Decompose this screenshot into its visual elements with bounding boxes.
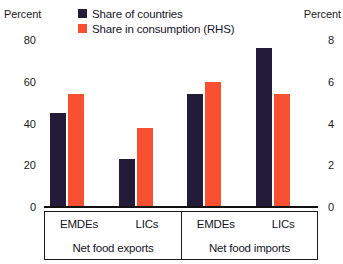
bar-group	[181, 40, 250, 207]
y2-axis-tick-label: 2	[328, 160, 334, 171]
legend-label: Share of countries	[92, 8, 183, 20]
y-axis-tick-label: 0	[30, 202, 36, 213]
y2-axis-tick-label: 6	[328, 76, 334, 87]
y2-axis-tick-label: 4	[328, 118, 334, 129]
legend-swatch-icon	[78, 9, 87, 18]
category-sublabel: LICs	[113, 218, 181, 230]
chart-legend: Share of countriesShare in consumption (…	[78, 6, 234, 36]
category-group-box: EMDEsLICsNet food exports	[44, 211, 182, 260]
category-group-box: EMDEsLICsNet food imports	[181, 211, 318, 260]
bar-share-of-countries	[119, 159, 135, 207]
category-sublabel: EMDEs	[45, 218, 113, 230]
x-axis-line	[44, 206, 318, 208]
y2-axis-tick-label: 0	[328, 202, 334, 213]
category-group-label: Net food exports	[45, 236, 181, 259]
category-sublabel-row: EMDEsLICs	[182, 212, 317, 236]
legend-label: Share in consumption (RHS)	[92, 23, 234, 35]
y-axis-tick-label: 80	[24, 35, 36, 46]
bar-share-in-consumption	[68, 94, 84, 207]
bar-share-of-countries	[187, 94, 203, 207]
bar-share-of-countries	[256, 48, 272, 207]
bar-group	[250, 40, 319, 207]
category-sublabel-row: EMDEsLICs	[45, 212, 181, 236]
legend-item: Share in consumption (RHS)	[78, 21, 234, 36]
bar-share-in-consumption	[137, 128, 153, 207]
category-sublabel: LICs	[250, 218, 318, 230]
y2-axis-tick-label: 8	[328, 35, 334, 46]
plot-area: 02040608002468	[44, 40, 318, 207]
legend-swatch-icon	[78, 24, 87, 33]
bar-group	[113, 40, 182, 207]
category-group-label: Net food imports	[182, 236, 317, 259]
y-axis-tick-label: 20	[24, 160, 36, 171]
right-axis-title: Percent	[304, 8, 341, 20]
legend-item: Share of countries	[78, 6, 234, 21]
category-sublabel: EMDEs	[182, 218, 250, 230]
bar-group	[44, 40, 113, 207]
chart-figure: Percent Percent Share of countriesShare …	[0, 0, 343, 264]
bar-share-in-consumption	[205, 82, 221, 207]
y-axis-tick-label: 60	[24, 76, 36, 87]
bar-share-of-countries	[50, 113, 66, 207]
bar-share-in-consumption	[274, 94, 290, 207]
y-axis-tick-label: 40	[24, 118, 36, 129]
left-axis-title: Percent	[4, 8, 41, 20]
